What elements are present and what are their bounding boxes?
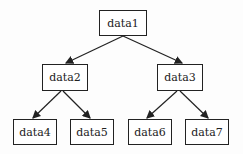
edge-data3-data6 <box>147 91 177 118</box>
node-data4: data4 <box>13 119 57 145</box>
node-label: data7 <box>191 126 223 139</box>
node-data5: data5 <box>70 119 114 145</box>
node-data1: data1 <box>99 10 147 36</box>
edge-data1-data2 <box>66 36 123 63</box>
edge-data1-data3 <box>123 36 182 63</box>
node-data7: data7 <box>185 119 229 145</box>
node-label: data5 <box>76 126 108 139</box>
edge-data2-data4 <box>33 91 61 118</box>
node-label: data1 <box>107 17 139 30</box>
node-data3: data3 <box>157 64 203 91</box>
node-data2: data2 <box>42 64 88 91</box>
tree-diagram: data1 data2 data3 data4 data5 data6 data… <box>0 0 243 154</box>
node-label: data6 <box>134 126 166 139</box>
node-label: data2 <box>49 71 81 84</box>
edge-data3-data7 <box>180 91 208 118</box>
node-data6: data6 <box>128 119 172 145</box>
node-label: data4 <box>19 126 51 139</box>
node-label: data3 <box>164 71 196 84</box>
edge-data2-data5 <box>63 91 90 118</box>
